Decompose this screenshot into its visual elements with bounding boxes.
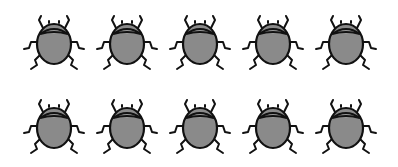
beetle-icon — [167, 96, 233, 156]
beetle-icon — [240, 12, 306, 72]
beetle-icon — [94, 96, 160, 156]
beetle-icon — [240, 96, 306, 156]
beetle-icon — [313, 96, 379, 156]
beetle-icon — [94, 12, 160, 72]
beetle-icon — [313, 12, 379, 72]
beetle-icon — [167, 12, 233, 72]
beetle-icon — [21, 96, 87, 156]
beetle-icon — [21, 12, 87, 72]
